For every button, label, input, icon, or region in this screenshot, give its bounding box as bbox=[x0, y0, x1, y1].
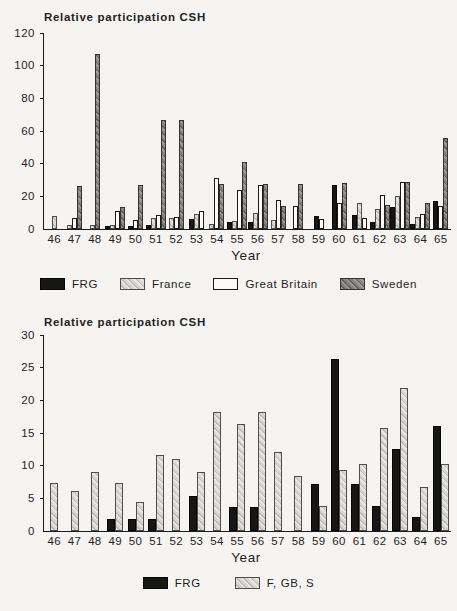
bar-great-britain-59 bbox=[319, 219, 324, 229]
bar-sweden-60 bbox=[342, 183, 347, 229]
figure: Relative participation CSH 0204060801001… bbox=[0, 0, 457, 611]
x-tick-label: 47 bbox=[68, 234, 81, 246]
legend-label-sweden: Sweden bbox=[372, 278, 417, 290]
y-tick-mark bbox=[40, 163, 44, 164]
y-tick-label: 0 bbox=[28, 525, 35, 537]
bar-f-gb-s-55 bbox=[237, 424, 245, 531]
x-tick-label: 51 bbox=[149, 234, 162, 246]
bar-f-gb-s-61 bbox=[359, 464, 367, 531]
bar-sweden-55 bbox=[242, 162, 247, 229]
bar-france-46 bbox=[52, 216, 57, 229]
x-tick-label: 56 bbox=[251, 234, 264, 246]
y-tick-mark bbox=[40, 196, 44, 197]
y-tick-mark bbox=[40, 433, 44, 434]
x-tick-label: 56 bbox=[251, 536, 264, 548]
bar-frg-55 bbox=[229, 507, 237, 531]
bar-f-gb-s-50 bbox=[136, 502, 144, 531]
x-axis-label: Year bbox=[231, 550, 261, 565]
bar-f-gb-s-65 bbox=[441, 464, 449, 531]
bar-f-gb-s-56 bbox=[258, 412, 266, 531]
x-tick-label: 46 bbox=[47, 234, 60, 246]
great-britain-swatch-icon bbox=[213, 278, 238, 290]
x-tick-label: 61 bbox=[353, 234, 366, 246]
y-tick-mark bbox=[40, 65, 44, 66]
bar-f-gb-s-64 bbox=[420, 487, 428, 531]
y-tick-mark bbox=[40, 335, 44, 336]
y-tick-mark bbox=[40, 400, 44, 401]
bar-sweden-48 bbox=[95, 54, 100, 229]
y-tick-mark bbox=[40, 131, 44, 132]
x-tick-label: 60 bbox=[332, 234, 345, 246]
bar-sweden-57 bbox=[281, 206, 286, 229]
chart-title: Relative participation CSH bbox=[44, 316, 206, 328]
bar-frg-64 bbox=[412, 517, 420, 531]
bar-sweden-65 bbox=[443, 138, 448, 229]
bar-frg-62 bbox=[372, 506, 380, 531]
legend: FRGFranceGreat BritainSweden bbox=[0, 278, 457, 290]
legend: FRGF, GB, S bbox=[0, 577, 457, 589]
y-tick-label: 60 bbox=[21, 125, 35, 137]
bar-f-gb-s-49 bbox=[115, 483, 123, 531]
x-tick-label: 55 bbox=[231, 536, 244, 548]
plot-area: 0510152025304647484950515253545556575859… bbox=[43, 335, 451, 532]
x-tick-label: 51 bbox=[149, 536, 162, 548]
x-tick-label: 63 bbox=[393, 234, 406, 246]
legend-item-f-gb-s: F, GB, S bbox=[235, 577, 315, 589]
legend-item-sweden: Sweden bbox=[340, 278, 417, 290]
bar-f-gb-s-48 bbox=[91, 472, 99, 531]
bar-frg-61 bbox=[351, 484, 359, 531]
bar-frg-65 bbox=[433, 426, 441, 531]
bar-sweden-49 bbox=[120, 207, 125, 229]
x-tick-label: 60 bbox=[332, 536, 345, 548]
bar-frg-63 bbox=[392, 449, 400, 531]
x-tick-label: 48 bbox=[88, 536, 101, 548]
bar-great-britain-53 bbox=[199, 211, 204, 229]
frg-swatch-icon bbox=[143, 577, 168, 589]
bar-f-gb-s-58 bbox=[294, 476, 302, 531]
x-tick-label: 62 bbox=[373, 234, 386, 246]
plot-area: 0204060801001204647484950515253545556575… bbox=[43, 33, 451, 230]
x-tick-label: 49 bbox=[109, 234, 122, 246]
x-tick-label: 54 bbox=[210, 234, 223, 246]
y-tick-label: 80 bbox=[21, 93, 35, 105]
y-tick-mark bbox=[40, 367, 44, 368]
bar-f-gb-s-51 bbox=[156, 455, 164, 531]
legend-label-frg: FRG bbox=[175, 577, 201, 589]
bar-frg-49 bbox=[107, 519, 115, 531]
bar-frg-56 bbox=[250, 507, 258, 531]
x-tick-label: 47 bbox=[68, 536, 81, 548]
legend-item-frg: FRG bbox=[40, 278, 98, 290]
legend-label-france: France bbox=[152, 278, 191, 290]
x-tick-label: 53 bbox=[190, 536, 203, 548]
y-tick-mark bbox=[40, 98, 44, 99]
x-tick-label: 58 bbox=[292, 234, 305, 246]
x-tick-label: 58 bbox=[292, 536, 305, 548]
chart-title: Relative participation CSH bbox=[44, 11, 206, 23]
y-tick-mark bbox=[40, 498, 44, 499]
bar-frg-53 bbox=[189, 496, 197, 531]
x-tick-label: 65 bbox=[434, 536, 447, 548]
bar-frg-60 bbox=[331, 359, 339, 531]
frg-swatch-icon bbox=[40, 278, 65, 290]
bar-f-gb-s-47 bbox=[71, 491, 79, 532]
y-tick-label: 40 bbox=[21, 158, 35, 170]
bar-f-gb-s-63 bbox=[400, 388, 408, 531]
france-swatch-icon bbox=[120, 278, 145, 290]
y-tick-label: 30 bbox=[21, 329, 35, 341]
x-tick-label: 62 bbox=[373, 536, 386, 548]
x-tick-label: 61 bbox=[353, 536, 366, 548]
y-tick-label: 20 bbox=[21, 395, 35, 407]
bar-f-gb-s-62 bbox=[380, 428, 388, 531]
y-tick-label: 20 bbox=[21, 191, 35, 203]
x-axis-label: Year bbox=[231, 248, 261, 263]
legend-label-f-gb-s: F, GB, S bbox=[267, 577, 315, 589]
x-tick-label: 59 bbox=[312, 536, 325, 548]
sweden-swatch-icon bbox=[340, 278, 365, 290]
f-gb-s-swatch-icon bbox=[235, 577, 260, 589]
x-tick-label: 65 bbox=[434, 234, 447, 246]
bar-sweden-64 bbox=[425, 203, 430, 229]
bar-sweden-50 bbox=[138, 185, 143, 229]
bar-f-gb-s-46 bbox=[50, 483, 58, 531]
chart-bottom-relative-participation: Relative participation CSH 0510152025304… bbox=[0, 300, 457, 611]
x-tick-label: 52 bbox=[170, 536, 183, 548]
